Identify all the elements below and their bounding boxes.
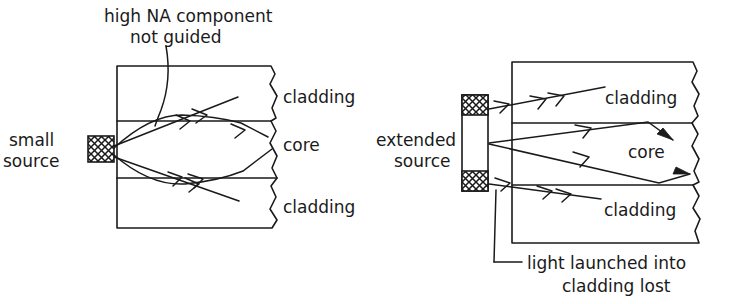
left-source-label-line1: small	[9, 130, 54, 150]
right-annotation-leader	[494, 190, 496, 262]
left-ray-guided-upper-arrow	[231, 124, 245, 138]
extended-source-bottom-cap	[462, 171, 488, 191]
right-fiber-diagram: extended source cladding core cladding l…	[376, 62, 700, 296]
right-upper-cladding-label: cladding	[605, 88, 677, 108]
right-ray-lower-cladding-arrow-1	[537, 186, 552, 199]
left-upper-cladding-label: cladding	[283, 87, 355, 107]
left-annotation-line2: not guided	[130, 27, 222, 47]
right-lower-cladding-label: cladding	[604, 200, 676, 220]
figure-canvas: high NA component not guided small sourc…	[0, 0, 733, 304]
right-ray-upper-cladding-arrow-2	[548, 93, 564, 106]
right-annotation-line2: cladding lost	[562, 276, 671, 296]
small-source-block	[88, 136, 114, 162]
left-lower-cladding-label: cladding	[283, 197, 355, 217]
left-annotation-line1: high NA component	[104, 6, 273, 26]
left-core-label: core	[283, 135, 320, 155]
right-source-label-line1: extended	[376, 130, 456, 150]
right-core-label: core	[628, 142, 665, 162]
right-ray-lower-cladding-arrow-2	[556, 189, 571, 202]
right-source-label-line2: source	[394, 151, 450, 171]
left-annotation-leader	[155, 46, 168, 126]
left-ray-guided-upper	[114, 115, 268, 148]
left-fiber-outline	[117, 66, 277, 228]
fiber-launch-figure: high NA component not guided small sourc…	[0, 0, 733, 304]
left-ray-guided-lower	[114, 149, 272, 184]
right-ray-upper-cladding-arrow-1	[530, 96, 546, 109]
extended-source-top-cap	[462, 95, 488, 115]
right-annotation-line1: light launched into	[527, 253, 686, 273]
left-source-label-line2: source	[3, 151, 59, 171]
right-ray-core-upper	[489, 122, 673, 143]
right-ray-core-lower-arrowhead	[673, 167, 690, 174]
left-fiber-diagram: high NA component not guided small sourc…	[3, 6, 355, 228]
